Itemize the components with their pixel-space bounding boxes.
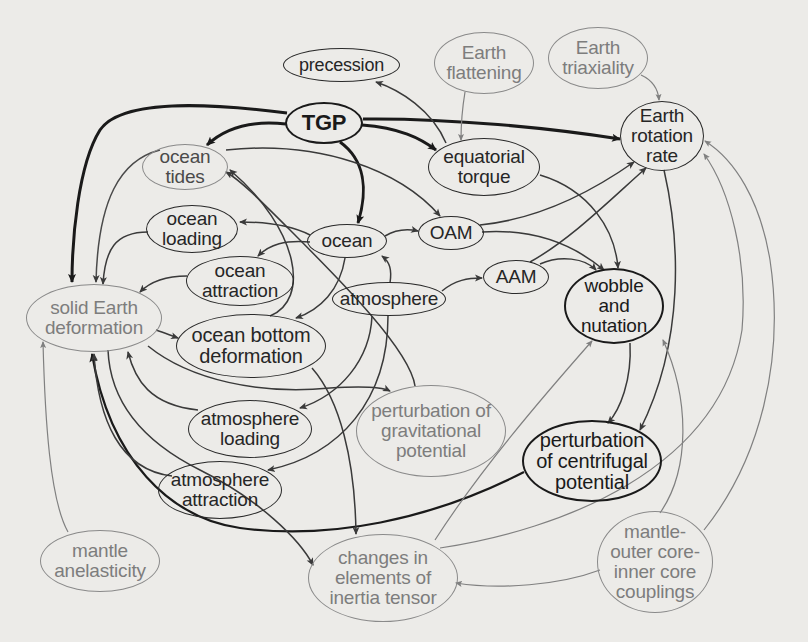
node-label: ocean [322, 231, 373, 251]
node-label: Earth triaxiality [562, 38, 634, 78]
edge-couplings-rotation [704, 141, 774, 530]
node-label: changes in elements of inertia tensor [329, 548, 436, 608]
edge-triaxiality-rotation [641, 75, 659, 100]
node-label: TGP [302, 111, 347, 134]
node-atmosphere-attraction: atmosphere attraction [158, 461, 282, 519]
edge-torque-wobble [540, 175, 618, 268]
node-label: Earth rotation rate [631, 106, 693, 166]
node-ocean-bottom-deformation: ocean bottom deformation [176, 314, 326, 378]
edge-ocean-oceanbottom [296, 258, 345, 318]
node-precession: precession [283, 48, 400, 82]
node-aam: AAM [483, 260, 549, 294]
node-earth-rotation-rate: Earth rotation rate [620, 101, 704, 171]
edge-torque-precession [376, 82, 446, 143]
edge-aam-rotation [530, 168, 646, 262]
node-oam: OAM [418, 216, 484, 250]
node-earth-triaxiality: Earth triaxiality [548, 27, 648, 89]
node-label: OAM [430, 223, 473, 243]
node-perturbation-gravitational-potential: perturbation of gravitational potential [356, 385, 506, 477]
edge-atmoattraction-solid [94, 354, 172, 476]
node-changes-inertia-tensor: changes in elements of inertia tensor [308, 534, 458, 622]
node-label: precession [299, 56, 384, 75]
edge-couplings-inertia [456, 570, 600, 586]
node-label: solid Earth deformation [45, 298, 143, 338]
edge-ocean-oceanloading [240, 222, 310, 235]
node-perturbation-centrifugal-potential: perturbation of centrifugal potential [522, 420, 662, 502]
node-label: atmosphere [340, 289, 438, 309]
edge-atmo-aam [442, 278, 482, 291]
node-label: mantle anelasticity [54, 541, 146, 581]
node-equatorial-torque: equatorial torque [428, 138, 540, 196]
edge-tgp-ocean-tides [207, 123, 286, 145]
node-ocean-loading: ocean loading [146, 205, 238, 253]
node-label: ocean tides [160, 147, 211, 187]
node-earth-flattening: Earth flattening [434, 32, 534, 94]
node-label: perturbation of centrifugal potential [536, 430, 648, 493]
node-atmosphere: atmosphere [332, 282, 446, 316]
node-label: ocean bottom deformation [192, 325, 311, 367]
edge-oceanattraction-solid [140, 276, 187, 292]
edge-solid-inertia [108, 350, 313, 565]
edge-tgp-earth-rotation [363, 119, 620, 139]
node-ocean: ocean [307, 224, 387, 258]
edge-atmo-ocean [382, 256, 391, 283]
node-label: atmosphere attraction [171, 470, 269, 510]
node-mantle-core-couplings: mantle- outer core- inner core couplings [597, 511, 713, 613]
node-label: equatorial torque [443, 147, 524, 187]
edge-tgp-ocean [340, 142, 363, 223]
node-ocean-tides: ocean tides [142, 144, 228, 190]
node-label: AAM [496, 267, 537, 287]
node-label: ocean attraction [202, 261, 278, 301]
edge-ocean-oceanattraction [258, 242, 310, 256]
edge-oceanloading-solid [103, 232, 148, 284]
node-label: atmosphere loading [201, 409, 299, 449]
node-solid-earth-deformation: solid Earth deformation [26, 284, 162, 352]
node-label: perturbation of gravitational potential [371, 401, 491, 461]
edge-oceantides-oam [226, 148, 440, 216]
node-label: wobble and nutation [581, 276, 647, 336]
node-mantle-anelasticity: mantle anelasticity [40, 530, 160, 592]
edge-wobble-centrifugal [608, 343, 630, 423]
node-label: Earth flattening [446, 43, 521, 83]
edge-ocean-oam [385, 230, 418, 236]
node-label: mantle- outer core- inner core couplings [610, 522, 700, 602]
edge-flattening-torque [461, 92, 465, 140]
edge-mantleanel-solid [43, 342, 68, 532]
node-label: ocean loading [162, 209, 222, 249]
edge-tgp-equatorial-torque [362, 125, 436, 150]
edge-solid-oceanbottom [156, 330, 178, 338]
node-ocean-attraction: ocean attraction [186, 256, 294, 306]
node-wobble-and-nutation: wobble and nutation [564, 268, 664, 344]
node-tgp: TGP [285, 102, 363, 144]
diagram-canvas: precession Earth flattening Earth triaxi… [0, 0, 808, 642]
edge-aam-wobble [540, 259, 596, 270]
node-atmosphere-loading: atmosphere loading [188, 400, 312, 458]
